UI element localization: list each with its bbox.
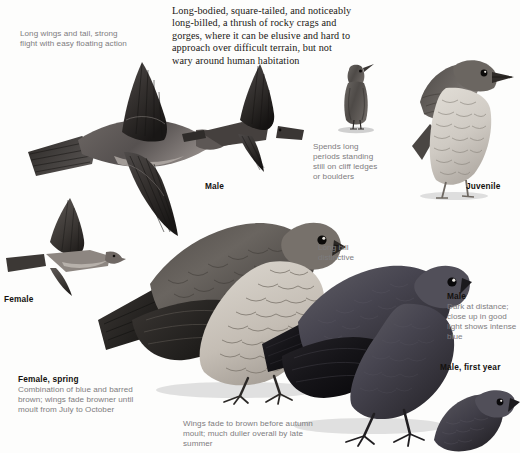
caption-block-male-title: Male xyxy=(447,291,517,301)
juvenile-perched-illustration xyxy=(402,50,514,202)
caption-block-female-spring-body: Combination of blue and barred brown; wi… xyxy=(18,385,150,415)
caption-block-female-spring-title: Female, spring xyxy=(18,374,150,384)
male-in-flight-small-illustration xyxy=(182,62,310,180)
standing-bird-frontal-illustration xyxy=(330,58,382,138)
caption-block-male: Male Dark at distance; close up in good … xyxy=(447,291,517,342)
caption-standing: Spends long periods standing still on cl… xyxy=(313,142,383,182)
caption-block-female-spring: Female, spring Combination of blue and b… xyxy=(18,374,150,415)
label-male-first-year: Male, first year xyxy=(440,362,501,372)
intro-description: Long-bodied, square-tailed, and noticeab… xyxy=(172,5,354,67)
caption-wings-fade: Wings fade to brown before autumn moult;… xyxy=(183,419,313,449)
label-female-flight: Female xyxy=(4,294,34,304)
caption-flight: Long wings and tail, strong flight with … xyxy=(20,29,132,49)
field-guide-plate: Long wings and tail, strong flight with … xyxy=(0,0,520,453)
caption-block-male-body: Dark at distance; close up in good light… xyxy=(447,302,517,342)
male-first-year-perched-illustration xyxy=(428,388,520,453)
label-male-flight: Male xyxy=(205,181,224,191)
label-juvenile: Juvenile xyxy=(466,181,500,191)
caption-long-bill: Long bill distinctive xyxy=(318,243,380,263)
